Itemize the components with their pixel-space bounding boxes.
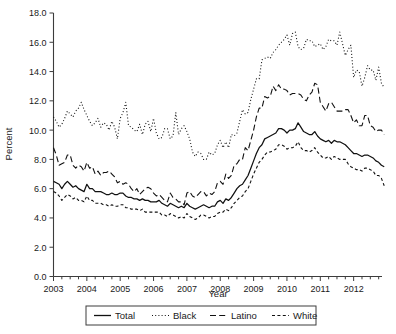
x-tick-label: 2003 bbox=[43, 284, 63, 294]
x-tick-label: 2007 bbox=[177, 284, 197, 294]
x-tick-label: 2005 bbox=[110, 284, 130, 294]
y-tick-label: 2.0 bbox=[34, 243, 47, 253]
x-tick-label: 2012 bbox=[344, 284, 364, 294]
series-lines bbox=[54, 32, 385, 219]
legend-label-black: Black bbox=[173, 310, 196, 321]
x-tick-label: 2009 bbox=[244, 284, 264, 294]
legend-label-white: White bbox=[293, 310, 317, 321]
chart-canvas: 0.02.04.06.08.010.012.014.016.018.0 2003… bbox=[0, 0, 396, 334]
x-tick-label: 2004 bbox=[77, 284, 97, 294]
y-tick-label: 16.0 bbox=[29, 38, 47, 48]
series-line-white bbox=[54, 142, 385, 220]
x-tick-label: 2006 bbox=[144, 284, 164, 294]
y-axis: 0.02.04.06.08.010.012.014.016.018.0 bbox=[29, 8, 54, 282]
chart-legend: TotalBlackLatinoWhite bbox=[86, 306, 317, 325]
y-tick-label: 10.0 bbox=[29, 126, 47, 136]
x-axis-title: Year bbox=[208, 288, 227, 299]
unemployment-rate-chart: 0.02.04.06.08.010.012.014.016.018.0 2003… bbox=[0, 0, 396, 334]
y-tick-label: 14.0 bbox=[29, 67, 47, 77]
legend-label-latino: Latino bbox=[231, 310, 257, 321]
series-line-total bbox=[54, 123, 385, 209]
x-tick-label: 2011 bbox=[311, 284, 330, 294]
y-tick-label: 18.0 bbox=[29, 8, 47, 18]
series-line-latino bbox=[54, 83, 385, 205]
y-tick-label: 4.0 bbox=[34, 213, 47, 223]
y-tick-label: 8.0 bbox=[34, 155, 47, 165]
legend-label-total: Total bbox=[115, 310, 135, 321]
y-axis-title: Percent bbox=[3, 127, 14, 160]
x-tick-label: 2010 bbox=[277, 284, 297, 294]
y-tick-label: 12.0 bbox=[29, 96, 47, 106]
y-tick-label: 0.0 bbox=[34, 272, 47, 282]
y-tick-label: 6.0 bbox=[34, 184, 47, 194]
